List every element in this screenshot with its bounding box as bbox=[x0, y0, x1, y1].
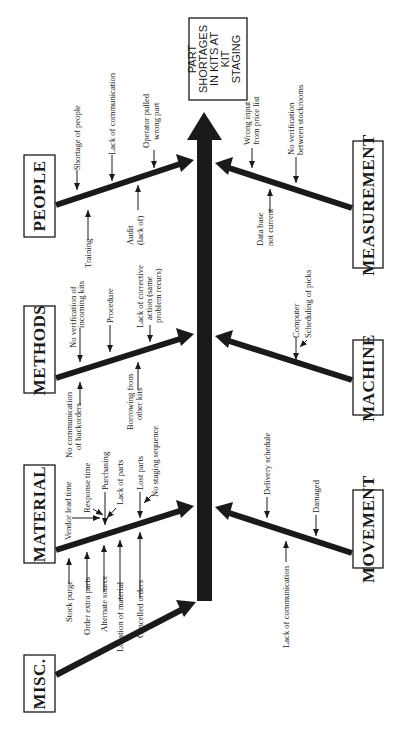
cause-lost-parts: Lost parts bbox=[135, 455, 145, 490]
cause-delivery-schedule: Delivery schedule bbox=[262, 433, 272, 495]
cause-computer: Computer bbox=[291, 303, 301, 338]
arrowhead-icon bbox=[215, 330, 233, 348]
cause-lack-of-communication-movement: Lack of communication bbox=[281, 565, 291, 648]
category-label-measurement: MEASUREMENT bbox=[359, 134, 378, 276]
cause-procedure: Procedure bbox=[105, 288, 115, 323]
cause-purchasing: Purchasing bbox=[100, 451, 110, 490]
cause-response-time: Response time bbox=[82, 462, 92, 513]
cause-no-staging-sequence: No staging sequence bbox=[150, 426, 160, 497]
fishbone-diagram: PART SHORTAGES IN KITS AT KIT STAGING PE… bbox=[0, 0, 395, 747]
category-misc: MISC. bbox=[24, 600, 196, 712]
cause-borrowing-sub: other kits bbox=[134, 387, 144, 420]
arrowhead-icon bbox=[176, 154, 194, 172]
cause-lack-of-communication: Lack of communication bbox=[107, 72, 117, 155]
cause-scheduling-of-picks: Scheduling of picks bbox=[303, 269, 313, 338]
category-label-machine: MACHINE bbox=[359, 334, 378, 422]
cause-data-base: Data base bbox=[255, 212, 265, 246]
category-machine: MACHINE Computer Scheduling of picks bbox=[215, 269, 383, 422]
cause-operator-pulled: Operator pulled bbox=[141, 93, 151, 148]
cause-vendor-lead-time: Vendor lead time bbox=[63, 481, 73, 540]
cause-no-communication-backorders-sub: of backorders bbox=[73, 402, 83, 450]
category-label-movement: MOVEMENT bbox=[359, 475, 378, 583]
cause-alternate-source: Alternate source bbox=[99, 575, 109, 632]
cause-audit-sub: (lack of) bbox=[135, 216, 145, 245]
cause-wrong-input-sub: from price list bbox=[251, 96, 261, 145]
cause-audit: Audit bbox=[125, 225, 135, 245]
effect-box: PART SHORTAGES IN KITS AT KIT STAGING bbox=[186, 18, 247, 100]
spine-arrowhead-icon bbox=[187, 112, 222, 140]
category-methods: METHODS No verification of incoming kits… bbox=[24, 265, 194, 458]
cause-no-verification-kits-sub: incoming kits bbox=[76, 280, 86, 328]
category-measurement: MEASUREMENT Wrong input from price list … bbox=[215, 84, 383, 276]
arrowhead-icon bbox=[215, 157, 233, 175]
arrowhead-icon bbox=[176, 328, 194, 346]
cause-stock-purge: Stock purge bbox=[64, 581, 74, 622]
cause-damaged: Damaged bbox=[311, 479, 321, 513]
cause-shortage-of-people: Shortage of people bbox=[72, 105, 82, 170]
arrowhead-icon bbox=[176, 500, 194, 518]
category-people: PEOPLE Shortage of people Training Lack … bbox=[24, 72, 194, 268]
cause-data-base-sub: not current bbox=[265, 208, 275, 246]
cause-order-extra-parts: Order extra parts bbox=[82, 576, 92, 635]
cause-training: Training bbox=[83, 238, 93, 268]
category-label-people: PEOPLE bbox=[30, 160, 49, 231]
category-movement: MOVEMENT Delivery schedule Damaged Lack … bbox=[215, 433, 383, 648]
arrowhead-icon bbox=[215, 502, 233, 520]
category-label-material: MATERIAL bbox=[30, 466, 49, 562]
cause-lack-of-parts: Lack of parts bbox=[115, 459, 125, 505]
category-label-misc: MISC. bbox=[30, 658, 49, 709]
category-label-methods: METHODS bbox=[30, 305, 49, 395]
cause-no-verification-stockrooms-sub: between stockrooms bbox=[295, 84, 305, 155]
cause-operator-pulled-sub: wrong part bbox=[151, 102, 161, 140]
spine bbox=[187, 112, 222, 601]
effect-line-5: STAGING bbox=[230, 35, 242, 84]
cause-lack-corrective-sub2: problem recurs) bbox=[153, 268, 163, 323]
